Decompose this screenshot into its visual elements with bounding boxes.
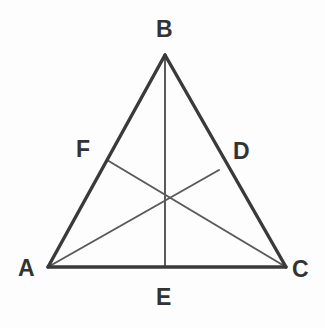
side-ab	[48, 55, 165, 267]
vertex-label-c: C	[292, 258, 309, 281]
geometry-diagram: B F D A C E	[0, 0, 325, 328]
vertex-label-d: D	[233, 140, 250, 163]
vertex-label-e: E	[156, 286, 171, 309]
vertex-label-a: A	[18, 257, 35, 280]
vertex-label-b: B	[156, 18, 173, 41]
side-bc	[165, 55, 286, 267]
vertex-label-f: F	[76, 138, 90, 161]
triangle-figure	[0, 0, 325, 328]
cevian-cf	[107, 160, 286, 267]
